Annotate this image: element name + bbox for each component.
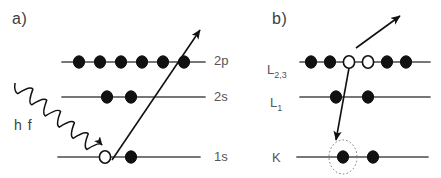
- hole-marker: [362, 56, 373, 68]
- electron-marker: [136, 56, 147, 68]
- incident-photon-arrow: [15, 83, 102, 149]
- electron-marker: [362, 91, 373, 103]
- electron-marker: [73, 56, 84, 68]
- electron-marker: [94, 56, 105, 68]
- electron-marker: [337, 151, 348, 163]
- electron-marker: [101, 91, 112, 103]
- electron-marker: [324, 56, 335, 68]
- electron-marker: [125, 91, 136, 103]
- electron-marker: [157, 56, 168, 68]
- electron-marker: [367, 151, 378, 163]
- hole-marker: [99, 151, 110, 163]
- hole-marker: [343, 56, 354, 68]
- annotations-group: [15, 16, 400, 174]
- electron-marker: [178, 56, 189, 68]
- levels-group: [58, 56, 430, 163]
- diagram-canvas: [0, 0, 441, 178]
- auger-electron-arrow: [356, 16, 400, 48]
- electron-marker: [115, 56, 126, 68]
- electron-marker: [400, 56, 411, 68]
- electron-marker: [305, 56, 316, 68]
- core-hole-filling-arrow: [336, 68, 349, 140]
- electron-marker: [381, 56, 392, 68]
- energy-level-diagram-figure: a) b) h f 2p2s1sL2,3L1K: [0, 0, 441, 178]
- electron-marker: [330, 91, 341, 103]
- electron-marker: [125, 151, 136, 163]
